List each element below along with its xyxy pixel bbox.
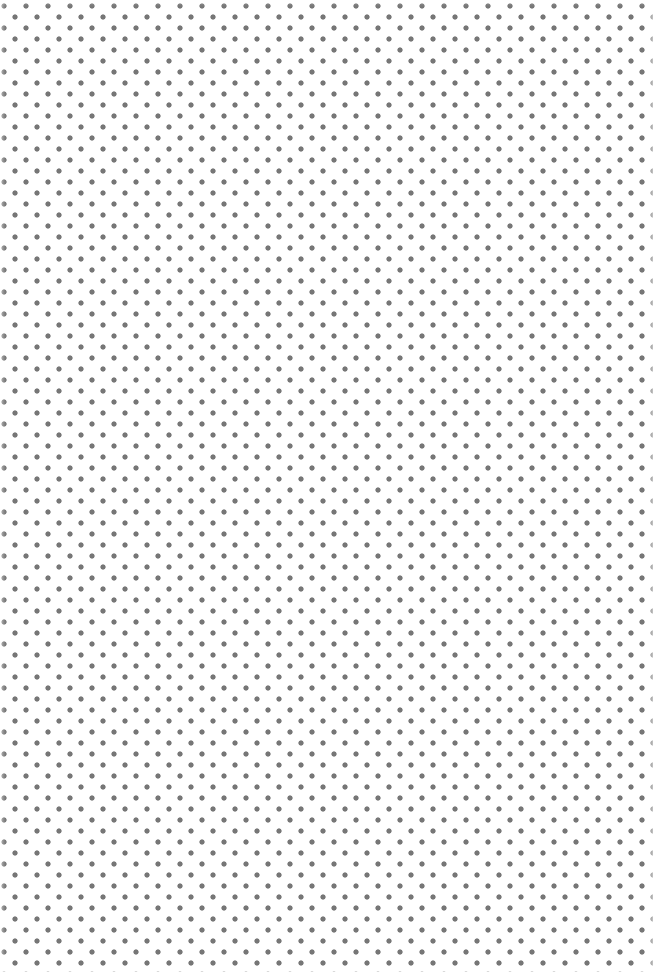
dot-pattern-background [0,0,653,972]
